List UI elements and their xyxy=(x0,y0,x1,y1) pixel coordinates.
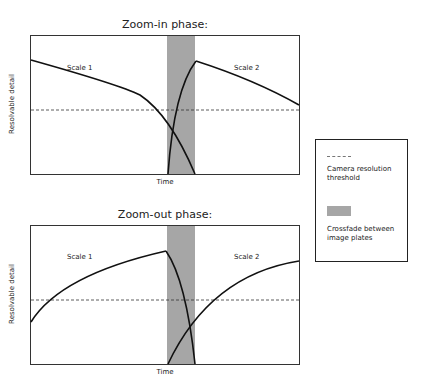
legend: Camera resolution threshold Crossfade be… xyxy=(315,139,408,262)
crossfade-swatch xyxy=(327,206,351,216)
legend-threshold-label: Camera resolution threshold xyxy=(327,165,407,183)
dashed-line-swatch xyxy=(327,156,351,157)
legend-crossfade-label: Crossfade between image plates xyxy=(327,225,407,243)
